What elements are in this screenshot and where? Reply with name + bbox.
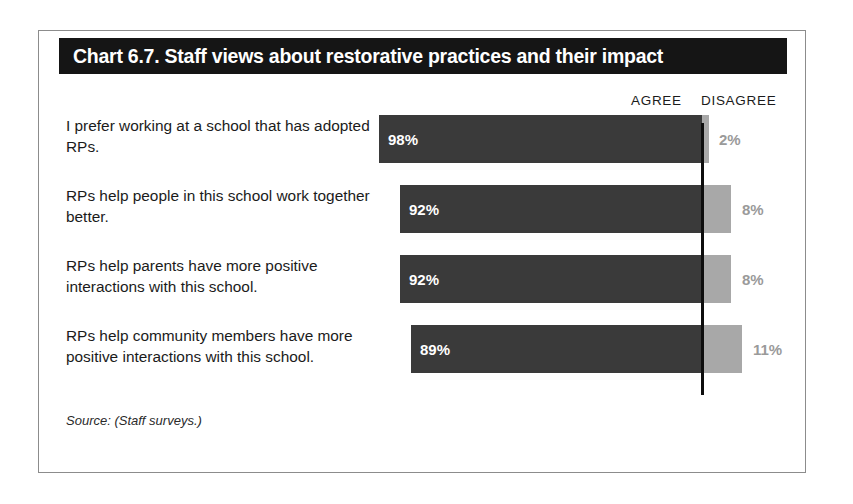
column-header-disagree: DISAGREE [701, 93, 776, 108]
bar-disagree-value: 2% [719, 115, 741, 163]
chart-title-bar: Chart 6.7. Staff views about restorative… [59, 38, 787, 74]
bar-track: 92% 8% [39, 255, 805, 303]
bar-agree: 92% [400, 185, 702, 233]
bar-disagree-value: 8% [742, 185, 764, 233]
agree-disagree-divider [701, 123, 704, 395]
bar-disagree-value: 11% [753, 325, 782, 373]
chart-figure: Chart 6.7. Staff views about restorative… [38, 30, 806, 473]
source-note: Source: (Staff surveys.) [66, 413, 202, 428]
bar-track: 89% 11% [39, 325, 805, 373]
chart-rows: I prefer working at a school that has ad… [39, 115, 805, 395]
bar-agree-value: 89% [420, 341, 450, 358]
bar-agree-value: 92% [409, 271, 439, 288]
bar-disagree-value: 8% [742, 255, 764, 303]
bar-disagree [702, 255, 731, 303]
column-headers: AGREE DISAGREE [39, 93, 805, 113]
chart-title: Chart 6.7. Staff views about restorative… [73, 45, 663, 68]
bar-disagree [702, 185, 731, 233]
bar-agree: 98% [379, 115, 702, 163]
chart-row: RPs help parents have more positive inte… [39, 255, 805, 325]
chart-row: RPs help community members have more pos… [39, 325, 805, 395]
bar-agree-value: 98% [388, 131, 418, 148]
bar-track: 92% 8% [39, 185, 805, 233]
bar-disagree [702, 325, 742, 373]
bar-track: 98% 2% [39, 115, 805, 163]
chart-row: I prefer working at a school that has ad… [39, 115, 805, 185]
bar-agree: 92% [400, 255, 702, 303]
bar-agree: 89% [411, 325, 702, 373]
column-header-agree: AGREE [631, 93, 682, 108]
chart-row: RPs help people in this school work toge… [39, 185, 805, 255]
bar-agree-value: 92% [409, 201, 439, 218]
